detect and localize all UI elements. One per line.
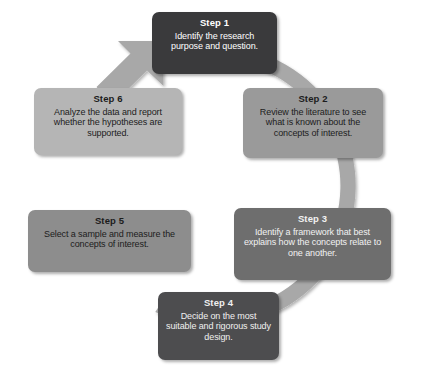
step-box-2[interactable]: Step 2 Review the literature to see what… [243, 88, 383, 158]
step-1-body: Identify the research purpose and questi… [159, 31, 270, 52]
step-6-body: Analyze the data and report whether the … [41, 107, 175, 138]
step-4-title: Step 4 [165, 297, 272, 308]
step-box-1[interactable]: Step 1 Identify the research purpose and… [152, 12, 277, 74]
step-1-title: Step 1 [159, 17, 270, 28]
step-box-5[interactable]: Step 5 Select a sample and measure the c… [28, 210, 191, 272]
step-4-body: Decide on the most suitable and rigorous… [165, 311, 272, 342]
step-6-title: Step 6 [41, 93, 175, 104]
research-process-cycle-diagram: Step 1 Identify the research purpose and… [0, 0, 423, 378]
step-box-3[interactable]: Step 3 Identify a framework that best ex… [234, 208, 391, 280]
step-5-title: Step 5 [35, 215, 184, 226]
step-3-body: Identify a framework that best explains … [241, 227, 384, 258]
step-box-6[interactable]: Step 6 Analyze the data and report wheth… [34, 88, 182, 155]
step-5-body: Select a sample and measure the concepts… [35, 229, 184, 250]
step-2-body: Review the literature to see what is kno… [250, 107, 376, 138]
step-box-4[interactable]: Step 4 Decide on the most suitable and r… [158, 292, 279, 360]
step-2-title: Step 2 [250, 93, 376, 104]
step-3-title: Step 3 [241, 213, 384, 224]
